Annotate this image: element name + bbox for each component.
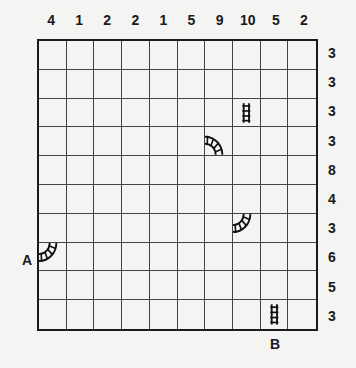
grid-cell[interactable] (67, 214, 95, 243)
grid-cell[interactable] (67, 300, 95, 329)
grid-cell[interactable] (261, 70, 289, 99)
grid-cell[interactable] (205, 99, 233, 128)
grid-cell[interactable] (288, 243, 316, 272)
grid-cell[interactable] (233, 41, 261, 70)
grid-cell[interactable] (39, 156, 67, 185)
grid-cell[interactable] (94, 271, 122, 300)
grid-cell[interactable] (288, 127, 316, 156)
grid-cell[interactable] (261, 185, 289, 214)
grid-cell[interactable] (288, 70, 316, 99)
grid-cell[interactable] (39, 127, 67, 156)
grid-cell[interactable] (67, 243, 95, 272)
grid-cell[interactable] (233, 127, 261, 156)
grid-cell[interactable] (122, 127, 150, 156)
grid-cell[interactable] (178, 243, 206, 272)
grid-cell[interactable] (39, 300, 67, 329)
grid-cell[interactable] (205, 70, 233, 99)
grid-cell[interactable] (233, 70, 261, 99)
grid-cell[interactable] (94, 41, 122, 70)
grid-cell[interactable] (178, 127, 206, 156)
grid-cell[interactable] (150, 300, 178, 329)
grid-cell[interactable] (67, 41, 95, 70)
grid-cell[interactable] (122, 41, 150, 70)
grid-cell[interactable] (233, 156, 261, 185)
grid-cell[interactable] (205, 243, 233, 272)
grid-cell[interactable] (205, 271, 233, 300)
grid-cell[interactable] (150, 99, 178, 128)
grid-cell[interactable] (150, 214, 178, 243)
grid-cell[interactable] (94, 70, 122, 99)
grid-cell[interactable] (288, 271, 316, 300)
grid-cell[interactable] (178, 99, 206, 128)
grid-cell[interactable] (178, 214, 206, 243)
grid-cell[interactable] (178, 70, 206, 99)
grid-cell[interactable] (233, 214, 261, 243)
grid-cell[interactable] (233, 243, 261, 272)
grid-cell[interactable] (150, 70, 178, 99)
grid-cell[interactable] (205, 156, 233, 185)
grid-cell[interactable] (150, 271, 178, 300)
grid-cell[interactable] (122, 156, 150, 185)
grid-cell[interactable] (150, 185, 178, 214)
grid-cell[interactable] (178, 271, 206, 300)
grid-cell[interactable] (178, 41, 206, 70)
grid-cell[interactable] (150, 156, 178, 185)
grid-cell[interactable] (122, 70, 150, 99)
grid-cell[interactable] (39, 41, 67, 70)
grid-cell[interactable] (261, 127, 289, 156)
grid-cell[interactable] (94, 127, 122, 156)
grid-cell[interactable] (94, 185, 122, 214)
grid-cell[interactable] (122, 243, 150, 272)
grid-cell[interactable] (288, 99, 316, 128)
grid-cell[interactable] (178, 300, 206, 329)
grid-cell[interactable] (233, 185, 261, 214)
grid-cell[interactable] (39, 214, 67, 243)
grid-cell[interactable] (122, 271, 150, 300)
grid-cell[interactable] (94, 214, 122, 243)
grid-cell[interactable] (94, 99, 122, 128)
grid-cell[interactable] (39, 99, 67, 128)
grid-cell[interactable] (39, 243, 67, 272)
grid-cell[interactable] (205, 41, 233, 70)
grid-cell[interactable] (233, 271, 261, 300)
grid-cell[interactable] (178, 156, 206, 185)
grid-cell[interactable] (122, 214, 150, 243)
grid-cell[interactable] (67, 70, 95, 99)
grid-cell[interactable] (122, 99, 150, 128)
grid-cell[interactable] (288, 41, 316, 70)
grid-cell[interactable] (288, 156, 316, 185)
grid-cell[interactable] (261, 300, 289, 329)
grid-cell[interactable] (94, 300, 122, 329)
grid-cell[interactable] (178, 185, 206, 214)
grid-cell[interactable] (150, 41, 178, 70)
grid-cell[interactable] (39, 271, 67, 300)
grid-cell[interactable] (233, 99, 261, 128)
grid-cell[interactable] (288, 185, 316, 214)
grid-cell[interactable] (67, 99, 95, 128)
grid-cell[interactable] (67, 127, 95, 156)
grid-cell[interactable] (205, 214, 233, 243)
grid-cell[interactable] (205, 127, 233, 156)
grid-cell[interactable] (39, 185, 67, 214)
grid-cell[interactable] (261, 41, 289, 70)
grid-cell[interactable] (67, 185, 95, 214)
grid-cell[interactable] (288, 300, 316, 329)
grid-cell[interactable] (67, 156, 95, 185)
grid-cell[interactable] (261, 156, 289, 185)
grid-cell[interactable] (261, 99, 289, 128)
grid-cell[interactable] (288, 214, 316, 243)
grid-cell[interactable] (205, 185, 233, 214)
grid-cell[interactable] (261, 214, 289, 243)
grid-cell[interactable] (261, 243, 289, 272)
grid-cell[interactable] (261, 271, 289, 300)
grid-cell[interactable] (67, 271, 95, 300)
grid-cell[interactable] (150, 243, 178, 272)
grid-cell[interactable] (150, 127, 178, 156)
grid-cell[interactable] (122, 300, 150, 329)
grid-cell[interactable] (233, 300, 261, 329)
grid-cell[interactable] (122, 185, 150, 214)
grid-cell[interactable] (205, 300, 233, 329)
grid-cell[interactable] (94, 156, 122, 185)
grid-cell[interactable] (94, 243, 122, 272)
grid-cell[interactable] (39, 70, 67, 99)
